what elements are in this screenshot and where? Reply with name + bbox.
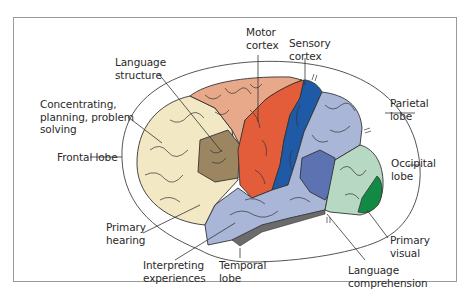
label-frontal-lobe: Frontal lobe: [57, 151, 118, 164]
label-occipital-lobe: Occipital lobe: [391, 157, 436, 182]
leader-primary-visual: [367, 210, 388, 238]
label-sensory-cortex: Sensory cortex: [289, 37, 331, 62]
label-primary-hearing: Primary hearing: [106, 221, 146, 246]
skull-tick-right: [364, 128, 371, 133]
label-motor-cortex: Motor cortex: [246, 26, 279, 51]
label-concentrating-planning: Concentrating, planning, problem solving: [40, 98, 134, 136]
label-primary-visual: Primary visual: [390, 234, 430, 259]
leader-language-comprehension: [327, 214, 365, 260]
label-parietal-lobe: Parietal lobe: [390, 97, 429, 122]
label-interpreting-experiences: Interpreting experiences: [143, 259, 206, 284]
label-temporal-lobe: Temporal lobe: [219, 259, 266, 284]
skull-tick-bottom: [327, 217, 330, 223]
label-language-comprehension: Language comprehension: [348, 264, 428, 289]
skull-tick-top: [312, 74, 317, 81]
label-language-structure: Language structure: [115, 56, 166, 81]
